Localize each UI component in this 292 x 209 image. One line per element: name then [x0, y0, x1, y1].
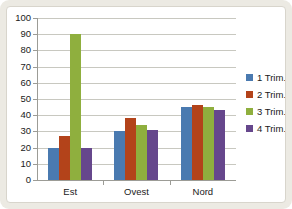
legend-item[interactable]: 3 Trim.: [246, 103, 286, 120]
bar: [192, 105, 203, 180]
x-axis-line: [37, 180, 236, 181]
legend-label: 4 Trim.: [257, 124, 286, 134]
bar-group: Est: [37, 18, 103, 180]
x-axis-category-label: Nord: [170, 187, 236, 197]
bar: [181, 107, 192, 180]
legend-label: 3 Trim.: [257, 107, 286, 117]
bar: [59, 136, 70, 180]
y-tick-label: 10: [20, 159, 31, 169]
chart-legend: 1 Trim.2 Trim.3 Trim.4 Trim.: [246, 69, 286, 137]
bar-group: Nord: [170, 18, 236, 180]
chart-frame-inner: 0102030405060708090100 EstOvestNord 1 Tr…: [6, 6, 286, 203]
legend-swatch-icon: [246, 91, 253, 98]
legend-swatch-icon: [246, 125, 253, 132]
y-tick-label: 20: [20, 143, 31, 153]
x-axis-separator-tick: [103, 181, 104, 185]
y-tick-label: 60: [20, 78, 31, 88]
legend-label: 2 Trim.: [257, 90, 286, 100]
bar-group: Ovest: [103, 18, 169, 180]
bar: [114, 131, 125, 180]
y-tick-label: 80: [20, 46, 31, 56]
bar: [125, 118, 136, 180]
y-tick-label: 30: [20, 127, 31, 137]
bar: [81, 148, 92, 180]
chart-frame: 0102030405060708090100 EstOvestNord 1 Tr…: [0, 0, 292, 209]
y-tick-label: 100: [15, 13, 31, 23]
legend-label: 1 Trim.: [257, 73, 286, 83]
bar: [147, 130, 158, 180]
bar: [70, 34, 81, 180]
y-tick-mark: [33, 180, 37, 181]
y-tick-label: 40: [20, 110, 31, 120]
legend-swatch-icon: [246, 74, 253, 81]
legend-item[interactable]: 2 Trim.: [246, 86, 286, 103]
y-tick-label: 50: [20, 94, 31, 104]
bar: [203, 107, 214, 180]
x-axis-separator-tick: [170, 181, 171, 185]
legend-swatch-icon: [246, 108, 253, 115]
bar: [214, 110, 225, 180]
y-tick-label: 90: [20, 29, 31, 39]
bar: [48, 148, 59, 180]
y-tick-label: 70: [20, 62, 31, 72]
y-tick-label: 0: [26, 175, 31, 185]
x-axis-category-label: Est: [37, 187, 103, 197]
plot-area: 0102030405060708090100 EstOvestNord: [37, 18, 236, 181]
bar: [136, 125, 147, 180]
legend-item[interactable]: 1 Trim.: [246, 69, 286, 86]
x-axis-category-label: Ovest: [103, 187, 169, 197]
legend-item[interactable]: 4 Trim.: [246, 120, 286, 137]
